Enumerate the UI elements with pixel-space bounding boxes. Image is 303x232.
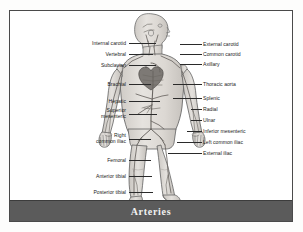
leader-line-external-iliac [168,153,202,154]
leader-line-axillary [180,64,202,65]
artery-label-femoral: Femoral [89,157,126,163]
leader-line-radial [191,109,202,110]
figure-frame: Internal carotidVertebralSubclavianBrach… [9,10,293,222]
caption-text: Arteries [131,206,172,217]
artery-label-external-carotid: External carotid [203,41,239,47]
leader-line-brachial [129,84,151,85]
artery-label-splenic: Splenic [203,95,220,101]
leader-line-hepatic [129,101,160,102]
leader-line-vertebral [129,54,153,55]
figure-plate: Internal carotidVertebralSubclavianBrach… [10,11,292,201]
leader-line-left-common-iliac [177,142,202,143]
leader-line-internal-carotid [129,43,156,44]
artery-label-ulnar: Ulnar [203,117,215,123]
leader-line-superior-mesenteric [129,114,157,115]
leader-line-inferior-mesenteric [187,131,202,132]
caption-bar: Arteries [10,200,292,221]
leader-line-anterior-tibial [129,176,152,177]
artery-label-brachial: Brachial [89,81,126,87]
artery-label-hepatic: Hepatic [90,98,126,104]
leader-line-right-common-iliac [129,139,151,140]
artery-label-vertebral: Vertebral [86,51,126,57]
artery-label-radial: Radial [203,106,218,112]
artery-label-axillary: Axillary [203,61,220,67]
artery-label-subclavian: Subclavian [81,62,126,68]
artery-label-posterior-tibial: Posterior tibial [74,189,126,195]
leader-line-ulnar [191,120,202,121]
leader-line-common-carotid [180,54,202,55]
artery-label-right-common-iliac: Right common iliac [72,132,126,144]
artery-label-anterior-tibial: Anterior tibial [76,173,126,179]
leader-line-external-carotid [180,44,202,45]
artery-label-external-iliac: External iliac [203,150,232,156]
leader-line-femoral [129,160,151,161]
human-body-illustration [10,11,292,201]
figure-root: Internal carotidVertebralSubclavianBrach… [0,0,303,232]
artery-label-left-common-iliac: Left common iliac [203,139,243,145]
leader-line-subclavian [129,65,156,66]
artery-label-inferior-mesenteric: Inferior mesenteric [203,128,246,134]
leader-line-thoracic-aorta [173,84,202,85]
leader-line-posterior-tibial [129,192,153,193]
artery-label-internal-carotid: Internal carotid [72,40,126,46]
artery-label-common-carotid: Common carotid [203,51,241,57]
artery-label-thoracic-aorta: Thoracic aorta [203,81,236,87]
artery-label-superior-mesenteric: Superior mesenteric [79,107,126,119]
leader-line-splenic [173,98,202,99]
